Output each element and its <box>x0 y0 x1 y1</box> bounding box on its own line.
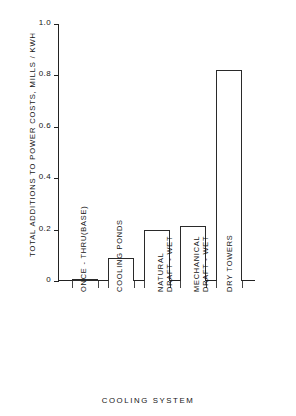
y-tick-label-0.4: 0.4 <box>39 172 51 181</box>
category-label-line-2: DRAFT - WET <box>166 236 175 292</box>
y-tick-label-0.2: 0.2 <box>39 224 51 233</box>
category-label-once-thru-base: ONCE - THRU(BASE) <box>80 205 89 292</box>
x-tick-8 <box>216 281 217 288</box>
y-tick-0: 0 <box>54 281 59 282</box>
x-tick-6 <box>180 281 181 288</box>
bar-chart: TOTAL ADDITIONS TO POWER COSTS, MILLS / … <box>0 0 296 416</box>
y-tick-1.0: 1.0 <box>54 24 59 25</box>
y-tick-0.6: 0.6 <box>54 127 59 128</box>
x-axis-title: COOLING SYSTEM <box>0 396 296 405</box>
category-label-mechanical-draft-wet: MECHANICAL DRAFT - WET <box>193 236 210 292</box>
x-tick-3 <box>134 281 135 288</box>
y-tick-0.8: 0.8 <box>54 75 59 76</box>
category-label-line-1: COOLING PONDS <box>115 219 124 292</box>
y-tick-0.2: 0.2 <box>54 230 59 231</box>
y-tick-label-1.0: 1.0 <box>39 18 51 27</box>
category-label-line-1: DRY TOWERS <box>225 234 234 292</box>
x-tick-4 <box>144 281 145 288</box>
y-tick-label-0.6: 0.6 <box>39 121 51 130</box>
y-tick-label-0.8: 0.8 <box>39 69 51 78</box>
y-axis-title: TOTAL ADDITIONS TO POWER COSTS, MILLS / … <box>28 10 37 280</box>
y-axis-line <box>58 24 59 281</box>
category-label-dry-towers: DRY TOWERS <box>226 234 235 292</box>
x-tick-2 <box>108 281 109 288</box>
category-label-cooling-ponds: COOLING PONDS <box>116 219 125 292</box>
category-label-natural-draft-wet: NATURAL DRAFT - WET <box>157 236 174 292</box>
x-tick-1 <box>98 281 99 288</box>
y-tick-label-0: 0 <box>46 275 51 284</box>
x-tick-0 <box>72 281 73 288</box>
y-tick-0.4: 0.4 <box>54 178 59 179</box>
x-tick-9 <box>242 281 243 288</box>
category-label-line-2: DRAFT - WET <box>202 236 211 292</box>
category-label-line-1: ONCE - THRU(BASE) <box>79 205 88 292</box>
